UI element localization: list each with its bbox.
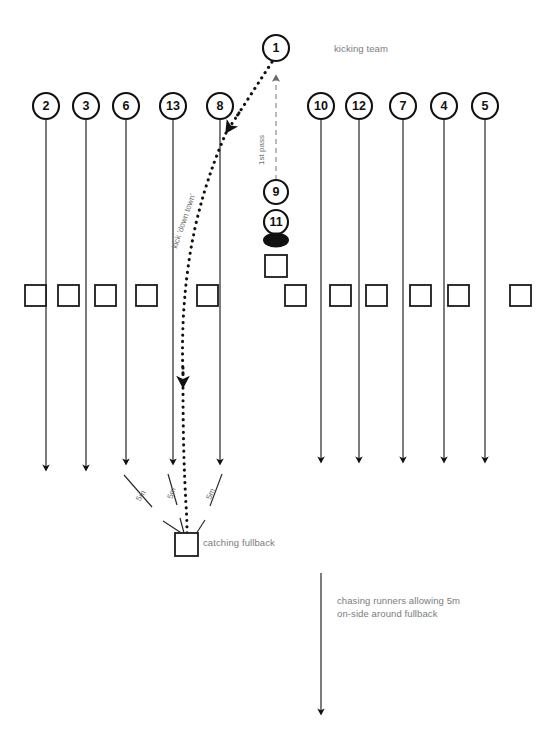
opposition-square: [25, 285, 46, 306]
player-number-7: 7: [400, 99, 407, 113]
player-number-2: 2: [43, 99, 50, 113]
field-canvas: 1 9 11 2 3 6 13 8 10 12 7 4 5: [0, 0, 554, 745]
player-number-10: 10: [314, 99, 328, 113]
first-pass-label: 1st pass: [257, 135, 266, 165]
catching-fullback-label: catching fullback: [203, 537, 275, 548]
kick-path-segment-upper: [237, 62, 272, 116]
opposition-square: [136, 285, 157, 306]
distance-leader-line-2b: [180, 518, 184, 533]
player-number-4: 4: [441, 99, 448, 113]
catching-fullback-square: [175, 533, 198, 556]
opposition-square-centre: [265, 255, 287, 277]
opposition-square: [95, 285, 116, 306]
player-number-12: 12: [352, 99, 366, 113]
opposition-square: [285, 285, 306, 306]
chasing-runners-label-line1: chasing runners allowing 5m: [337, 595, 460, 606]
distance-leader-line-3b: [196, 520, 205, 534]
player-number-1: 1: [273, 41, 280, 55]
distance-label-3: 5m: [204, 487, 217, 501]
player-number-8: 8: [217, 99, 224, 113]
opposition-square: [366, 285, 387, 306]
opposition-square: [448, 285, 469, 306]
player-number-6: 6: [123, 99, 130, 113]
opposition-square: [330, 285, 351, 306]
kicking-team-label: kicking team: [334, 43, 388, 54]
opposition-square: [58, 285, 79, 306]
distance-label-2: 5m: [166, 486, 178, 500]
rugby-ball-icon: [263, 233, 289, 248]
player-number-3: 3: [83, 99, 90, 113]
player-number-5: 5: [482, 99, 489, 113]
player-number-13: 13: [166, 99, 180, 113]
chasing-runners-label-line2: on-side around fullback: [337, 608, 438, 619]
opposition-square: [410, 285, 431, 306]
kick-path-segment-lower: [183, 388, 187, 534]
player-number-11: 11: [269, 215, 282, 229]
opposition-square: [510, 285, 531, 306]
player-number-9: 9: [273, 185, 280, 199]
rugby-tactics-diagram: 1 9 11 2 3 6 13 8 10 12 7 4 5: [0, 0, 554, 745]
opposition-square: [197, 285, 218, 306]
opposition-square-row: [25, 285, 531, 306]
